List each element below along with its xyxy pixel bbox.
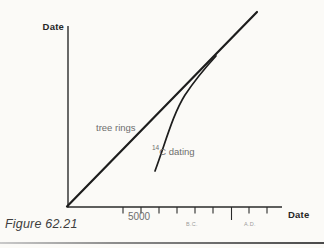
tree-rings-line: [67, 12, 257, 207]
page-rule: [0, 242, 324, 244]
c14-label-text: C dating: [159, 146, 194, 157]
x-tick-label-5000: 5000: [121, 211, 157, 222]
y-axis-title: Date: [28, 21, 64, 32]
chart-canvas: [0, 0, 324, 248]
figure-caption: Figure 62.21: [5, 217, 78, 231]
figure-62-21: Date Date tree rings 14C dating 5000 B.C…: [0, 0, 324, 248]
tree-rings-label: tree rings: [96, 122, 136, 133]
c14-dating-label: 14C dating: [152, 146, 195, 157]
c14-superscript: 14: [152, 144, 159, 151]
x-axis-title: Date: [288, 209, 309, 220]
era-label-bc: B.C.: [182, 221, 202, 227]
era-label-ad: A.D.: [240, 221, 260, 227]
